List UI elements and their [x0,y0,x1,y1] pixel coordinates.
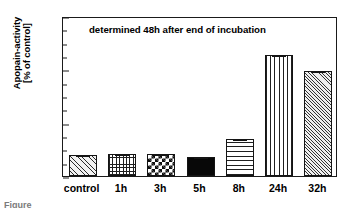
error-cap-control [76,156,90,157]
x-tick-label-24h: 24h [269,182,287,194]
error-cap-5h [194,158,208,159]
x-tick-label-32h: 32h [308,182,326,194]
bar-series [63,18,336,176]
error-cap-3h [154,155,168,156]
bar-32h [304,71,332,176]
x-tick-label-5h: 5h [193,182,205,194]
error-cap-32h [311,72,325,73]
x-tick-label-8h: 8h [233,182,245,194]
plot-area: determined 48h after end of incubation 0… [62,17,337,177]
error-cap-1h [115,155,129,156]
figure-container: Apopain-activity [% of control] determin… [0,0,349,208]
error-cap-8h [233,140,247,141]
x-tick-label-3h: 3h [154,182,166,194]
bar-1h [108,154,136,176]
bar-24h [265,55,293,176]
x-tick-label-control: control [64,182,100,194]
y-axis-title: Apopain-activity [% of control] [7,0,37,123]
y-axis-title-line2: [% of control] [22,23,32,83]
bar-8h [226,139,254,176]
bar-3h [147,154,175,176]
error-cap-24h [272,56,286,57]
bar-5h [187,157,215,176]
y-tick-mark [63,178,69,179]
bar-control [69,155,97,176]
caption-stub: Figure [4,200,32,208]
x-tick-label-1h: 1h [115,182,127,194]
